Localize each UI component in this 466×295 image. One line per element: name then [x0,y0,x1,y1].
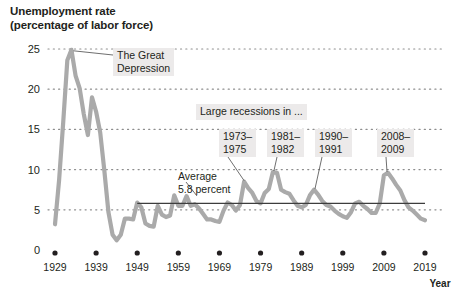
x-tick-label-1939: 1939 [84,261,108,273]
x-axis-title: Year [429,278,450,289]
recession-4-line-2: 2009 [381,143,410,156]
large-recessions-header: Large recessions in ... [196,104,307,120]
recession-1-line-1: 1973– [223,130,252,143]
x-tick-dot-1969 [217,250,222,255]
recession-label-2008-2009: 2008– 2009 [377,129,414,157]
x-tick-label-1979: 1979 [249,261,273,273]
y-tick-label-5: 5 [34,204,40,216]
average-line-2: 5.8 percent [178,183,231,196]
recession-2-line-1: 1981– [271,130,300,143]
recession-label-1973-1975: 1973– 1975 [219,129,256,157]
recession-3-line-2: 1991 [319,143,348,156]
y-tick-label-15: 15 [28,123,40,135]
x-tick-label-1949: 1949 [126,261,150,273]
recession-3-line-1: 1990– [319,130,348,143]
leader-2008-2009 [386,157,387,172]
recession-label-1990-1991: 1990– 1991 [315,129,352,157]
recession-1-line-2: 1975 [223,143,252,156]
x-tick-label-1969: 1969 [208,261,232,273]
x-axis-ticks-group: 1929193919491959196919791989199920092019 [43,250,437,273]
recession-4-line-1: 2008– [381,130,410,143]
x-tick-dot-1989 [299,250,304,255]
great-depression-line-1: The Great [117,49,170,62]
leader-1981-1982 [274,157,277,171]
great-depression-annotation: The Great Depression [113,48,174,76]
y-tick-label-0: 0 [34,244,40,256]
y-tick-label-25: 25 [28,43,40,55]
leader-1990-1991 [315,157,322,189]
x-tick-label-1959: 1959 [167,261,191,273]
unemployment-rate-chart: Unemployment rate (percentage of labor f… [0,0,466,295]
x-tick-dot-2009 [381,250,386,255]
x-tick-dot-1949 [135,250,140,255]
average-annotation: Average 5.8 percent [178,170,231,195]
x-tick-dot-1959 [176,250,181,255]
x-tick-dot-1929 [52,250,57,255]
x-tick-label-1989: 1989 [290,261,314,273]
x-tick-dot-1979 [258,250,263,255]
x-tick-dot-1999 [340,250,345,255]
x-tick-dot-1939 [94,250,99,255]
x-tick-label-2019: 2019 [413,261,437,273]
y-axis-ticks-group: 0510152025 [28,43,40,256]
y-tick-label-10: 10 [28,164,40,176]
x-tick-label-2009: 2009 [372,261,396,273]
x-tick-dot-2019 [422,250,427,255]
x-tick-label-1929: 1929 [43,261,67,273]
recession-2-line-2: 1982 [271,143,300,156]
average-line-1: Average [178,170,231,183]
leader-great-depression [73,51,113,55]
x-tick-label-1999: 1999 [331,261,355,273]
recession-label-1981-1982: 1981– 1982 [267,129,304,157]
y-tick-label-20: 20 [28,83,40,95]
great-depression-line-2: Depression [117,62,170,75]
